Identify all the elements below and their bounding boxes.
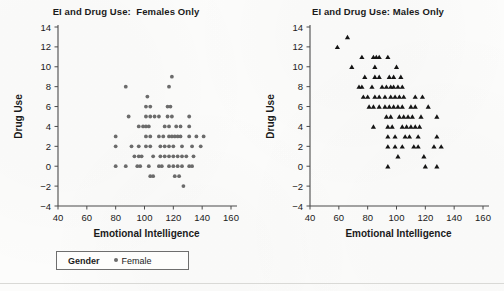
data-point (431, 144, 436, 148)
data-point (157, 134, 161, 138)
data-point (335, 45, 340, 49)
data-point (401, 94, 406, 98)
circle-marker-icon (114, 258, 118, 262)
data-point (138, 164, 142, 168)
data-point (377, 94, 382, 98)
page-bottom-rule (0, 283, 504, 284)
y-tick-label: 10 (292, 61, 303, 72)
data-point (167, 85, 171, 89)
data-point (161, 134, 165, 138)
y-tick-label: 14 (292, 22, 303, 33)
data-point (190, 144, 194, 148)
data-point (413, 94, 418, 98)
data-point (180, 154, 184, 158)
y-tick-label: 6 (298, 101, 303, 112)
data-point (195, 134, 199, 138)
x-tick-label: 120 (165, 212, 181, 223)
data-point (144, 105, 148, 109)
data-point (384, 84, 389, 88)
data-point (400, 124, 405, 128)
legend-females: Gender Female (56, 251, 189, 270)
x-tick-label: 60 (82, 212, 93, 223)
data-point (413, 124, 418, 128)
legend-title-females: Gender (68, 256, 100, 266)
data-point (137, 144, 141, 148)
scatter-svg-females: −4−202468101214406080100120140160Emotion… (0, 0, 252, 245)
data-point (387, 75, 392, 79)
data-point (158, 144, 162, 148)
data-point (382, 104, 387, 108)
data-point (114, 134, 118, 138)
data-point (167, 154, 171, 158)
data-point (395, 154, 400, 158)
data-point (388, 114, 393, 118)
x-tick-label: 140 (446, 212, 462, 223)
data-point (158, 154, 162, 158)
data-point (176, 164, 180, 168)
data-point (144, 134, 148, 138)
data-point (418, 114, 423, 118)
data-point (403, 134, 408, 138)
data-point (157, 115, 161, 119)
data-point (394, 65, 399, 69)
data-point (385, 55, 390, 59)
data-point (144, 144, 148, 148)
data-point (148, 105, 152, 109)
y-tick-label: −2 (292, 181, 303, 192)
data-point (391, 104, 396, 108)
y-tick-label: 8 (46, 81, 51, 92)
data-point (372, 75, 377, 79)
data-point (371, 104, 376, 108)
data-point (371, 124, 376, 128)
data-point (187, 134, 191, 138)
data-point (391, 75, 396, 79)
x-axis-title: Emotional Intelligence (345, 228, 452, 239)
data-point (407, 134, 412, 138)
data-point (169, 105, 173, 109)
data-point (423, 164, 428, 168)
data-point (184, 154, 188, 158)
chart-panel-females: EI and Drug Use: Females Only −4−2024681… (0, 0, 252, 291)
data-point (171, 144, 175, 148)
data-point (180, 164, 184, 168)
data-point (147, 125, 151, 129)
data-point (167, 164, 171, 168)
data-point (400, 144, 405, 148)
chart-panel-males: EI and Drug Use: Males Only −4−202468101… (252, 0, 504, 291)
data-point (163, 144, 167, 148)
data-point (408, 124, 413, 128)
data-point (179, 125, 183, 129)
x-tick-label: 100 (137, 212, 153, 223)
data-point (385, 164, 390, 168)
data-point (384, 114, 389, 118)
data-point (137, 125, 141, 129)
data-point (171, 154, 175, 158)
data-point (416, 144, 421, 148)
data-point (369, 84, 374, 88)
data-point (400, 84, 405, 88)
data-point (163, 125, 167, 129)
data-point (413, 104, 418, 108)
data-point (400, 104, 405, 108)
data-point (202, 134, 206, 138)
x-axis-title: Emotional Intelligence (93, 228, 200, 239)
data-point (401, 114, 406, 118)
data-point (130, 144, 134, 148)
data-point (385, 144, 390, 148)
series-female (114, 75, 206, 188)
x-tick-label: 140 (194, 212, 210, 223)
data-point (144, 115, 148, 119)
data-point (145, 95, 149, 99)
x-tick-label: 160 (475, 212, 491, 223)
data-point (398, 75, 403, 79)
data-point (133, 154, 137, 158)
data-point (140, 154, 144, 158)
data-point (392, 144, 397, 148)
data-point (166, 115, 170, 119)
data-point (434, 164, 439, 168)
data-point (163, 154, 167, 158)
data-point (199, 144, 203, 148)
data-point (174, 125, 178, 129)
y-tick-label: 4 (298, 121, 303, 132)
x-tick-label: 100 (389, 212, 405, 223)
